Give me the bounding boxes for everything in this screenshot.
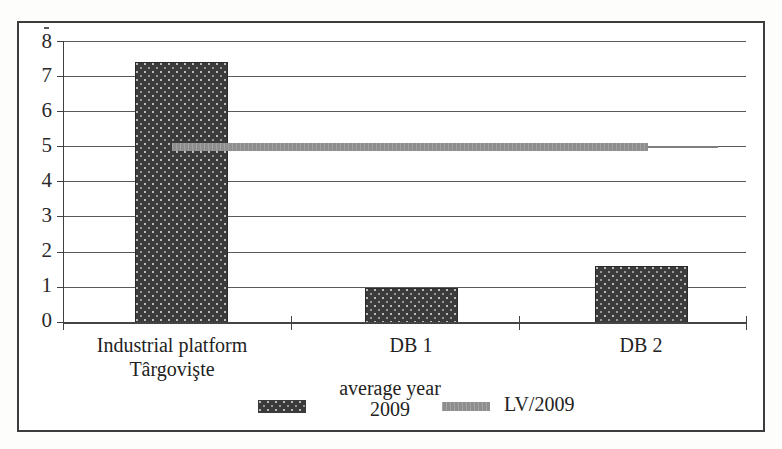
legend-label-average-year-2009-line1: average year — [320, 378, 460, 399]
scan-artifact-mark — [44, 27, 49, 29]
x-axis-label-db1: DB 1 — [351, 333, 471, 357]
bar-average-year-2009-db2 — [595, 266, 688, 323]
x-tick-start — [63, 316, 64, 330]
figure-page: 8 7 6 5 4 3 2 1 0 — [0, 0, 782, 449]
legend-label-average-year-2009-line2: 2009 — [320, 399, 460, 420]
y-tick-label-3: 3 — [24, 205, 52, 226]
y-axis-line — [63, 41, 64, 323]
x-axis-label-db2: DB 2 — [581, 333, 701, 357]
x-axis-label-industrial-platform-line1: Industrial platform — [82, 333, 262, 357]
y-tick-label-8: 8 — [24, 31, 52, 52]
y-tick-label-0: 0 — [24, 310, 52, 331]
y-axis-labels: 8 7 6 5 4 3 2 1 0 — [22, 0, 52, 449]
y-tick-label-5: 5 — [24, 135, 52, 156]
y-tick-label-4: 4 — [24, 170, 52, 191]
y-tick-6 — [57, 111, 64, 112]
x-tick-end — [746, 316, 747, 330]
gridline-8 — [63, 41, 746, 42]
y-tick-5 — [57, 146, 64, 147]
y-tick-label-1: 1 — [24, 275, 52, 296]
chart-legend: average year 2009 LV/2009 — [250, 381, 670, 423]
bar-average-year-2009-industrial-platform — [135, 62, 228, 323]
legend-swatch-lv-2009 — [442, 402, 490, 411]
x-axis-label-db2-line1: DB 2 — [581, 333, 701, 357]
legend-swatch-average-year-2009 — [258, 400, 306, 413]
x-axis-line — [63, 322, 747, 324]
y-tick-3 — [57, 216, 64, 217]
x-tick-2 — [519, 316, 520, 330]
y-tick-1 — [57, 287, 64, 288]
y-tick-2 — [57, 252, 64, 253]
x-axis-label-industrial-platform-line2: Târgovişte — [82, 357, 262, 381]
line-lv-2009-tail — [648, 146, 718, 148]
y-tick-label-7: 7 — [24, 65, 52, 86]
y-tick-7 — [57, 76, 64, 77]
bar-average-year-2009-db1 — [365, 288, 458, 323]
x-axis-label-db1-line1: DB 1 — [351, 333, 471, 357]
y-tick-label-6: 6 — [24, 100, 52, 121]
y-tick-4 — [57, 181, 64, 182]
x-tick-1 — [291, 316, 292, 330]
legend-label-lv-2009: LV/2009 — [504, 394, 624, 415]
y-tick-label-2: 2 — [24, 240, 52, 261]
line-lv-2009 — [172, 143, 648, 151]
legend-label-average-year-2009: average year 2009 — [320, 378, 460, 420]
x-axis-label-industrial-platform: Industrial platform Târgovişte — [82, 333, 262, 381]
y-tick-8 — [57, 41, 64, 42]
